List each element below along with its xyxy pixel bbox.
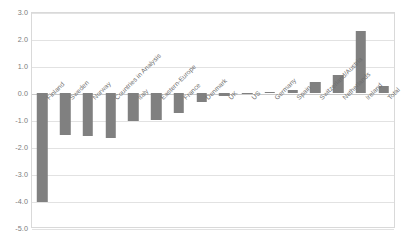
bar-slot: [54, 0, 77, 240]
bar-slot: [236, 0, 259, 240]
bar[interactable]: [287, 90, 297, 93]
bar-slot: [99, 0, 122, 240]
bar-slot: [77, 0, 100, 240]
bar-slot: [259, 0, 282, 240]
bar[interactable]: [83, 93, 93, 136]
bar-slot: [304, 0, 327, 240]
bar-slot: [350, 0, 373, 240]
bar-slot: [190, 0, 213, 240]
bar-slot: [31, 0, 54, 240]
bar[interactable]: [37, 93, 47, 202]
bar[interactable]: [105, 93, 115, 138]
bar-slot: [122, 0, 145, 240]
bar-slot: [372, 0, 395, 240]
bar-slot: [327, 0, 350, 240]
bar-slot: [213, 0, 236, 240]
bar[interactable]: [60, 93, 70, 135]
bar-slot: [168, 0, 191, 240]
bar-slot: [281, 0, 304, 240]
bar-slot: [145, 0, 168, 240]
bar[interactable]: [265, 92, 275, 93]
